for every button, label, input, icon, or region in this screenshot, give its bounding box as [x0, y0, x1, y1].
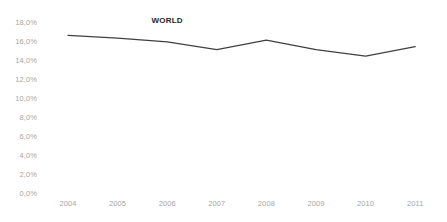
x-axis-tick-label: 2008 — [258, 199, 275, 208]
x-axis-tick-label: 2011 — [407, 199, 424, 208]
x-axis-tick-label: 2009 — [307, 199, 324, 208]
line-chart: 0,0%2,0%4,0%6,0%8,0%10,0%12,0%14,0%16,0%… — [0, 0, 447, 222]
x-axis-tick-label: 2004 — [59, 199, 76, 208]
x-axis-tick-label: 2010 — [357, 199, 374, 208]
x-axis-tick-label: 2007 — [208, 199, 225, 208]
series-annotation-label: WORLD — [152, 16, 183, 25]
x-axis-tick-label: 2005 — [109, 199, 126, 208]
x-axis: 20042005200620072008200920102011 — [0, 0, 447, 222]
x-axis-tick-label: 2006 — [159, 199, 176, 208]
